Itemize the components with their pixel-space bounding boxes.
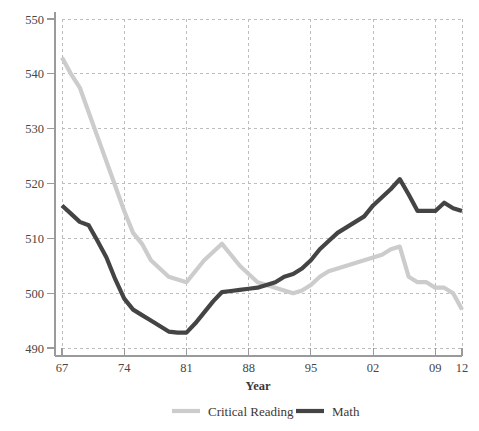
x-tick-label: 67 bbox=[56, 361, 69, 375]
y-tick-label: 530 bbox=[25, 122, 44, 136]
y-tick-label: 510 bbox=[25, 232, 44, 246]
y-tick-label: 500 bbox=[25, 287, 44, 301]
x-axis-title: Year bbox=[246, 379, 271, 393]
x-tick-label: 95 bbox=[305, 361, 318, 375]
legend-label: Critical Reading bbox=[208, 404, 294, 419]
line-chart: 490500510520530540550 6774818895020912 Y… bbox=[0, 0, 479, 431]
chart-legend: Critical ReadingMath bbox=[172, 404, 360, 419]
y-tick-label: 550 bbox=[25, 13, 44, 27]
x-tick-label: 74 bbox=[118, 361, 131, 375]
x-tick-label: 81 bbox=[180, 361, 193, 375]
chart-container: 490500510520530540550 6774818895020912 Y… bbox=[0, 0, 479, 431]
x-axis: 6774818895020912 bbox=[55, 348, 468, 375]
legend-label: Math bbox=[332, 404, 360, 419]
plot-series bbox=[62, 57, 462, 332]
y-tick-label: 540 bbox=[25, 67, 44, 81]
x-tick-label: 88 bbox=[242, 361, 255, 375]
y-tick-label: 520 bbox=[25, 177, 44, 191]
x-tick-label: 02 bbox=[367, 361, 380, 375]
x-tick-label: 09 bbox=[429, 361, 442, 375]
x-tick-label: 12 bbox=[456, 361, 469, 375]
y-axis: 490500510520530540550 bbox=[25, 12, 55, 356]
y-tick-label: 490 bbox=[25, 342, 44, 356]
